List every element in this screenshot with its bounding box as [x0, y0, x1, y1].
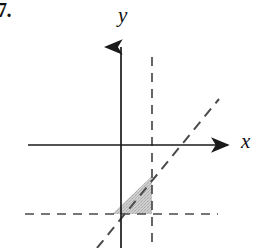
graph-canvas: [0, 0, 260, 248]
figure-container: 7. y x: [0, 0, 260, 248]
x-axis-label: x: [241, 131, 250, 152]
diagonal-dashed-line: [97, 99, 219, 248]
problem-number-label: 7.: [0, 0, 11, 20]
shaded-triangle: [112, 176, 152, 214]
y-axis-label: y: [118, 5, 127, 26]
